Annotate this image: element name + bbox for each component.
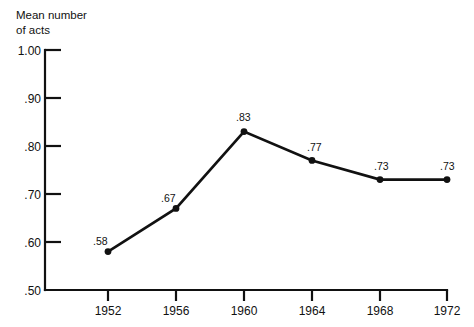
data-point-1964 xyxy=(309,157,316,164)
y-tick-label-0.70: .70 xyxy=(24,188,41,202)
x-tick-label-1968: 1968 xyxy=(367,304,394,318)
x-tick-label-1964: 1964 xyxy=(299,304,326,318)
data-point-1960 xyxy=(241,128,248,135)
line-chart-figure: Mean number of acts 1.00 .90 .80 .70 .60… xyxy=(0,0,474,327)
data-label-1960: .83 xyxy=(236,111,251,123)
y-tick-label-0.80: .80 xyxy=(24,140,41,154)
data-point-1972 xyxy=(444,176,451,183)
data-label-1952: .58 xyxy=(93,235,108,247)
data-label-1964: .77 xyxy=(307,141,322,153)
x-tick-label-1960: 1960 xyxy=(231,304,258,318)
data-series-line xyxy=(108,132,447,252)
y-axis-label-line-2: of acts xyxy=(16,24,50,36)
y-tick-label-0.50: .50 xyxy=(24,284,41,298)
x-tick-label-1952: 1952 xyxy=(95,304,122,318)
data-point-1952 xyxy=(105,248,112,255)
y-tick-label-0.90: .90 xyxy=(24,92,41,106)
y-tick-label-0.60: .60 xyxy=(24,236,41,250)
data-point-1956 xyxy=(173,205,180,212)
data-point-1968 xyxy=(377,176,384,183)
y-axis-label-line-1: Mean number xyxy=(16,9,87,21)
y-tick-label-1.00: 1.00 xyxy=(18,44,42,58)
data-label-1972: .73 xyxy=(440,160,455,172)
data-label-1968: .73 xyxy=(374,160,389,172)
x-tick-label-1956: 1956 xyxy=(163,304,190,318)
data-label-1956: .67 xyxy=(161,192,176,204)
x-tick-label-1972: 1972 xyxy=(434,304,461,318)
chart-svg: Mean number of acts 1.00 .90 .80 .70 .60… xyxy=(0,0,474,327)
